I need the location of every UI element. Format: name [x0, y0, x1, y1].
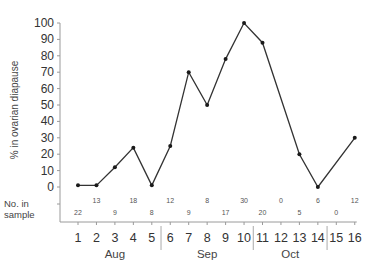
sample-size-value: 22 [74, 209, 82, 216]
data-point-marker [113, 165, 117, 169]
data-point-marker [242, 21, 246, 25]
x-tick-label: 13 [292, 231, 306, 245]
data-point-marker [168, 144, 172, 148]
sample-size-value: 5 [297, 209, 301, 216]
sample-size-value: 30 [240, 197, 248, 204]
x-tick-label: 7 [185, 231, 192, 245]
y-tick-label: 60 [41, 82, 55, 96]
sample-size-value: 18 [129, 197, 137, 204]
sample-size-value: 12 [166, 197, 174, 204]
x-tick-label: 10 [237, 231, 251, 245]
axes [57, 23, 357, 222]
x-tick-label: 2 [93, 231, 100, 245]
data-point-marker [205, 103, 209, 107]
sample-size-value: 9 [187, 209, 191, 216]
sample-row-label-line2: sample [4, 209, 35, 220]
sample-size-value: 20 [259, 209, 267, 216]
x-axis-ticks: 12345678910111213141516 [75, 222, 362, 245]
y-tick-label: 20 [41, 147, 55, 161]
x-tick-label: 5 [148, 231, 155, 245]
y-tick-label: 70 [41, 65, 55, 79]
data-point-marker [316, 185, 320, 189]
y-tick-label: 90 [41, 32, 55, 46]
data-point-marker [187, 70, 191, 74]
x-tick-label: 3 [111, 231, 118, 245]
sample-size-value: 13 [93, 197, 101, 204]
sample-size-value: 8 [205, 197, 209, 204]
x-tick-label: 8 [204, 231, 211, 245]
data-series [76, 21, 357, 189]
x-tick-label: 1 [75, 231, 82, 245]
x-tick-label: 16 [348, 231, 362, 245]
chart-canvas: 0102030405060708090100 % in ovarian diap… [0, 0, 377, 269]
data-point-marker [261, 41, 265, 45]
month-label: Aug [105, 248, 125, 260]
data-point-marker [224, 57, 228, 61]
sample-size-value: 6 [316, 197, 320, 204]
data-point-marker [76, 183, 80, 187]
y-axis-ticks: 0102030405060708090100 [34, 16, 60, 194]
sample-size-value: 8 [150, 209, 154, 216]
x-tick-label: 12 [274, 231, 288, 245]
y-tick-label: 40 [41, 114, 55, 128]
month-label: Oct [281, 248, 300, 260]
sample-size-value: 17 [222, 209, 230, 216]
month-label: Sep [197, 248, 217, 260]
line-chart: 0102030405060708090100 % in ovarian diap… [0, 0, 377, 269]
sample-size-value: 9 [113, 209, 117, 216]
series-line [78, 23, 355, 187]
sample-size-value: 0 [279, 197, 283, 204]
sample-sizes: 221391881298173020056012 [74, 197, 359, 216]
y-tick-label: 10 [41, 164, 55, 178]
sample-size-value: 12 [351, 197, 359, 204]
y-tick-label: 80 [41, 49, 55, 63]
y-tick-label: 100 [34, 16, 54, 30]
y-tick-label: 30 [41, 131, 55, 145]
data-point-marker [297, 152, 301, 156]
data-point-marker [353, 136, 357, 140]
data-point-marker [131, 146, 135, 150]
y-tick-label: 0 [47, 180, 54, 194]
sample-row-label-line1: No. in [4, 198, 29, 209]
y-tick-label: 50 [41, 98, 55, 112]
x-tick-label: 6 [167, 231, 174, 245]
x-tick-label: 11 [256, 231, 269, 245]
data-point-marker [94, 183, 98, 187]
x-tick-label: 14 [311, 231, 325, 245]
sample-size-value: 0 [334, 209, 338, 216]
y-axis-label: % in ovarian diapause [9, 60, 20, 159]
data-point-marker [150, 183, 154, 187]
x-tick-label: 4 [130, 231, 137, 245]
x-tick-label: 9 [222, 231, 229, 245]
x-tick-label: 15 [329, 231, 343, 245]
